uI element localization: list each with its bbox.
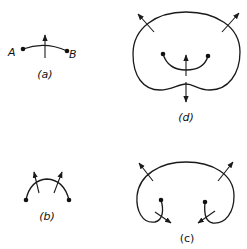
right-point-dot [67, 198, 72, 203]
caption-d: (d) [178, 111, 194, 124]
left-hook-dot [159, 198, 164, 203]
caption-a: (a) [37, 68, 52, 81]
right-hook-dot [203, 200, 208, 205]
diagram-canvas: A B (a) (b) (d) (c) [0, 0, 247, 249]
caption-b: (b) [39, 210, 55, 223]
caption-c: (c) [180, 232, 195, 245]
outer-left-arrow-icon [138, 14, 154, 32]
arc-b [26, 179, 69, 200]
panel-a: A B (a) [7, 35, 77, 81]
closed-kidney-curve [133, 12, 240, 90]
point-a-dot [21, 47, 26, 52]
inner-left-dot [161, 52, 166, 57]
left-normal-arrow-icon [34, 172, 39, 193]
left-point-dot [24, 198, 29, 203]
panel-d: (d) [133, 12, 240, 124]
hooked-curve [137, 162, 234, 223]
right-normal-arrow-icon [54, 172, 62, 193]
point-b-label: B [69, 48, 77, 61]
inner-right-dot [206, 54, 211, 59]
right-hook-arrow-icon [198, 211, 215, 223]
panel-b: (b) [24, 172, 72, 223]
point-a-label: A [7, 46, 16, 59]
panel-c: (c) [137, 162, 234, 245]
